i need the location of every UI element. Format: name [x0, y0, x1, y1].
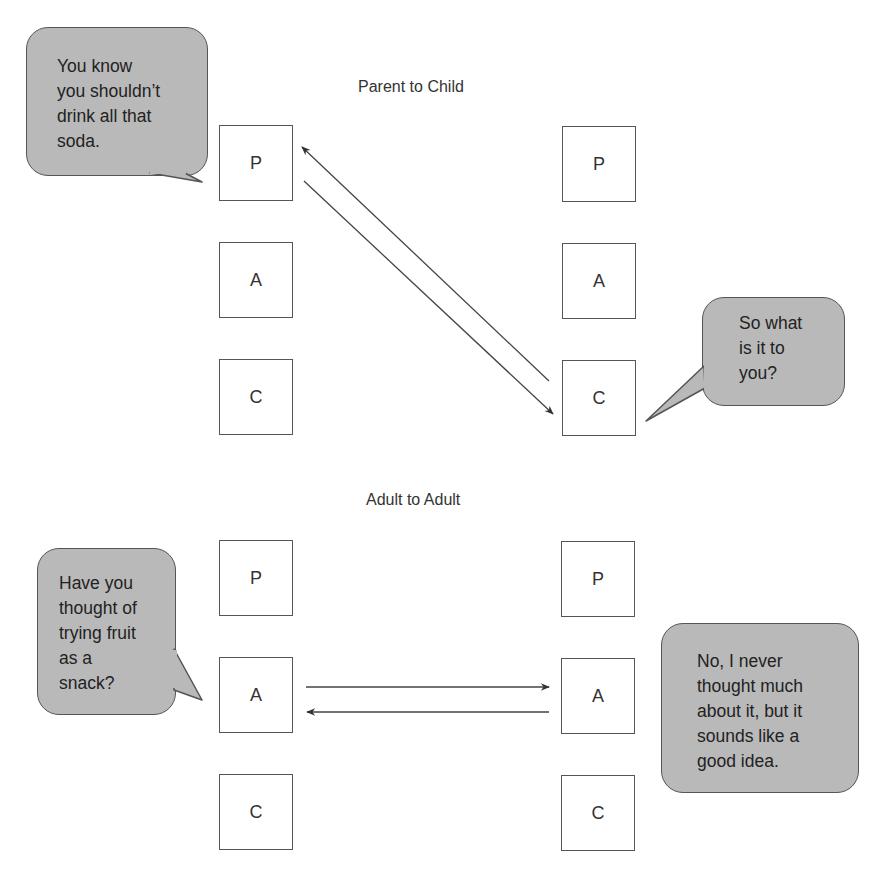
- speech-bubble-adult-right: No, I never thought much about it, but i…: [661, 623, 859, 793]
- speech-text: No, I never thought much about it, but i…: [697, 649, 803, 774]
